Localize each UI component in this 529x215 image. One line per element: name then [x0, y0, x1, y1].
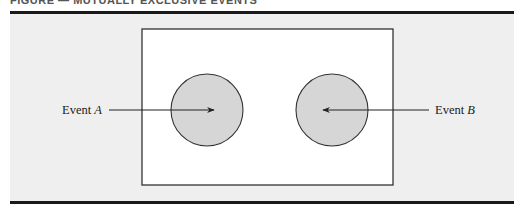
- event-b-label: Event B: [435, 103, 475, 118]
- event-a-label: Event A: [62, 103, 102, 118]
- event-a-label-prefix: Event: [62, 103, 91, 117]
- bottom-rule: [10, 201, 514, 204]
- event-b-label-prefix: Event: [435, 103, 464, 117]
- event-b-label-var: B: [467, 103, 475, 117]
- event-a-label-var: A: [94, 103, 102, 117]
